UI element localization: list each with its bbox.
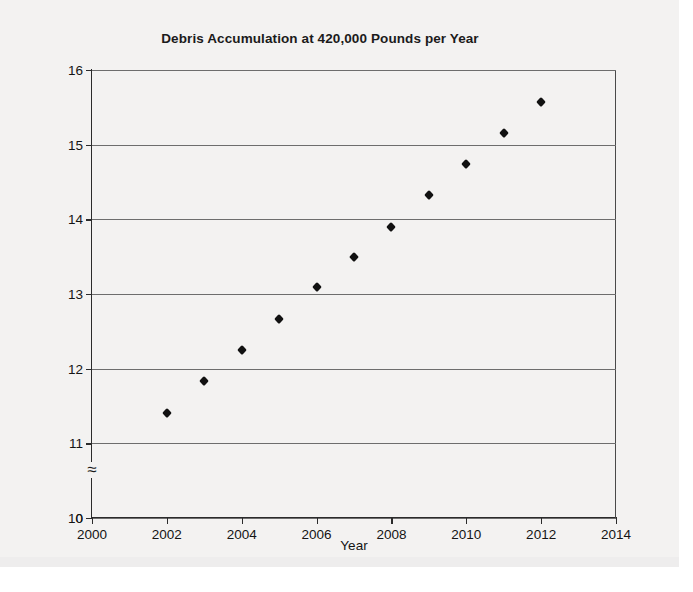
y-tick-mark [86,219,92,220]
chart-title: Debris Accumulation at 420,000 Pounds pe… [0,31,640,46]
gridline [92,369,616,370]
x-tick-mark [541,518,542,524]
gridline [92,145,616,146]
data-point [536,97,546,107]
data-point [424,190,434,200]
plot-area: 010111213141516 200020022004200620082010… [92,70,616,518]
y-tick-mark [86,70,92,71]
gridline [92,518,616,519]
x-tick-mark [317,518,318,524]
paper-bottom-edge [0,557,679,567]
y-tick-label: 11 [69,436,83,451]
y-tick-mark [86,294,92,295]
y-tick-label: 12 [68,361,83,376]
gridline [92,294,616,295]
y-tick-label: 15 [68,137,83,152]
data-point [461,159,471,169]
y-tick-label: 13 [68,287,83,302]
data-point [274,314,284,324]
x-tick-mark [466,518,467,524]
y-tick-mark [86,369,92,370]
y-tick-mark [86,443,92,444]
gridline [92,219,616,220]
data-point [499,128,509,138]
data-point [386,222,396,232]
data-point [199,376,209,386]
x-tick-mark [616,518,617,524]
data-point [312,282,322,292]
y-tick-label: 14 [68,212,83,227]
y-tick-label: 10 [68,511,83,526]
x-axis-title: Year [91,538,617,553]
y-tick-mark [86,145,92,146]
x-tick-mark [92,518,93,524]
data-point [162,408,172,418]
x-tick-mark [167,518,168,524]
chart-page: Debris Accumulation at 420,000 Pounds pe… [0,0,693,592]
x-tick-mark [242,518,243,524]
x-tick-mark [391,518,392,524]
data-point [237,345,247,355]
data-point [349,252,359,262]
gridline [92,443,616,444]
y-tick-label: 16 [68,63,83,78]
gridline [92,70,616,71]
